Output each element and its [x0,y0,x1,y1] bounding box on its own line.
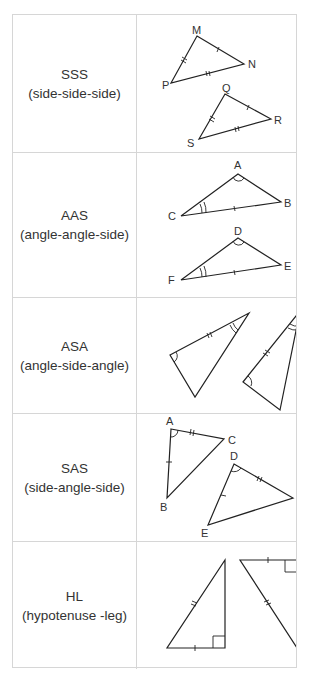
row-aas: AAS (angle-angle-side) A B C D E F [13,153,296,298]
postulate-name: (side-side-side) [28,84,120,103]
figure-cell: M N P Q R S [137,15,296,152]
vertex-label: C [168,210,176,222]
vertex-label: E [284,260,291,272]
postulate-name: (side-angle-side) [24,478,125,497]
postulate-abbr: SSS [61,65,88,84]
asa-triangles-figure [137,298,296,414]
postulate-abbr: ASA [61,337,88,356]
vertex-label: N [248,58,256,70]
postulate-name: (hypotenuse -leg) [22,606,127,625]
vertex-label: A [234,159,242,171]
postulate-name: (angle-angle-side) [20,225,129,244]
postulate-abbr: HL [66,587,83,606]
vertex-label: A [166,415,174,427]
row-sas: SAS (side-angle-side) A C B D F E [13,414,296,542]
vertex-label: M [192,24,201,36]
postulate-name: (angle-side-angle) [20,356,129,375]
sas-triangles-figure: A C B D F E [137,414,296,542]
vertex-label: E [201,527,208,539]
aas-triangles-figure: A B C D E F [137,153,296,298]
figure-cell [137,542,296,669]
vertex-label: B [284,197,291,209]
figure-cell [137,298,296,413]
label-cell: HL (hypotenuse -leg) [13,542,137,669]
vertex-label: B [160,501,167,513]
congruence-postulates-table: SSS (side-side-side) M N P Q R S [12,14,297,668]
vertex-label: D [234,225,242,237]
row-hl: HL (hypotenuse -leg) [13,542,296,669]
hl-triangles-figure [137,542,296,669]
vertex-label: P [162,79,169,91]
label-cell: SSS (side-side-side) [13,15,137,152]
label-cell: AAS (angle-angle-side) [13,153,137,297]
label-cell: ASA (angle-side-angle) [13,298,137,413]
row-asa: ASA (angle-side-angle) [13,298,296,414]
vertex-label: Q [222,82,231,94]
postulate-abbr: AAS [61,206,88,225]
label-cell: SAS (side-angle-side) [13,414,137,541]
vertex-label: R [274,114,282,126]
vertex-label: F [168,274,175,286]
figure-cell: A B C D E F [137,153,296,297]
vertex-label: C [228,434,236,446]
sss-triangles-figure: M N P Q R S [137,15,296,153]
figure-cell: A C B D F E [137,414,296,541]
postulate-abbr: SAS [61,459,88,478]
vertex-label: D [230,450,238,462]
row-sss: SSS (side-side-side) M N P Q R S [13,15,296,153]
vertex-label: S [187,137,194,149]
